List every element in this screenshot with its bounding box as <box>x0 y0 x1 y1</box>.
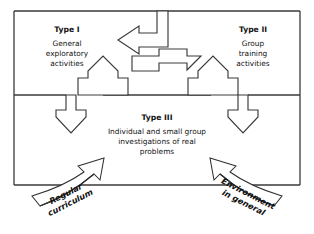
arrow-right-down <box>228 95 258 133</box>
type-ii-line-3: activities <box>236 59 269 68</box>
arrow-top-left-pointing <box>118 11 168 54</box>
diagram-canvas: Type I General exploratory activities Ty… <box>0 0 314 234</box>
type-i-label: Type I General exploratory activities <box>46 25 89 68</box>
type-iii-line-3: problems <box>140 147 175 156</box>
arrow-left-up <box>78 56 128 95</box>
type-i-line-2: exploratory <box>46 49 89 58</box>
type-iii-line-1: Individual and small group <box>108 127 206 136</box>
type-i-line-1: General <box>52 39 81 48</box>
type-i-line-3: activities <box>50 59 83 68</box>
arrow-left-down <box>56 95 86 133</box>
type-ii-line-1: Group <box>242 39 265 48</box>
type-iii-label: Type III Individual and small group inve… <box>108 113 206 156</box>
enrichment-triad-diagram: Type I General exploratory activities Ty… <box>0 0 314 234</box>
arrow-center-right-pointing <box>132 49 201 71</box>
type-ii-label: Type II Group training activities <box>236 25 269 68</box>
type-ii-line-2: training <box>239 49 268 58</box>
type-ii-heading: Type II <box>239 25 267 34</box>
type-i-heading: Type I <box>54 25 79 34</box>
type-iii-heading: Type III <box>142 113 173 122</box>
type-iii-line-2: investigations of real <box>118 137 196 146</box>
